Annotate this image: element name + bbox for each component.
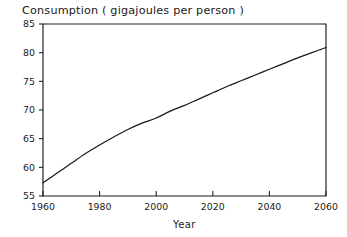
y-tick-label: 80: [23, 47, 35, 58]
plot-frame: [43, 24, 326, 196]
y-axis: 55606570758085: [23, 18, 43, 201]
y-tick-label: 55: [23, 190, 35, 201]
y-tick-label: 75: [23, 76, 35, 87]
series-group: [43, 48, 326, 183]
chart-title: Consumption ( gigajoules per person ): [22, 4, 244, 17]
y-tick-label: 60: [23, 162, 35, 173]
chart-container: Consumption ( gigajoules per person ) 55…: [0, 0, 347, 237]
x-tick-label: 2020: [201, 201, 225, 212]
x-tick-label: 2000: [144, 201, 168, 212]
x-tick-label: 1980: [88, 201, 112, 212]
x-axis: 196019802000202020402060: [31, 191, 338, 212]
series-line-consumption: [43, 48, 326, 183]
y-tick-label: 70: [23, 104, 35, 115]
x-tick-label: 2060: [314, 201, 338, 212]
x-tick-label: 1960: [31, 201, 55, 212]
y-tick-label: 85: [23, 18, 35, 29]
x-tick-label: 2040: [257, 201, 281, 212]
y-tick-label: 65: [23, 133, 35, 144]
line-chart: Consumption ( gigajoules per person ) 55…: [0, 0, 347, 237]
x-axis-title: Year: [172, 219, 196, 230]
